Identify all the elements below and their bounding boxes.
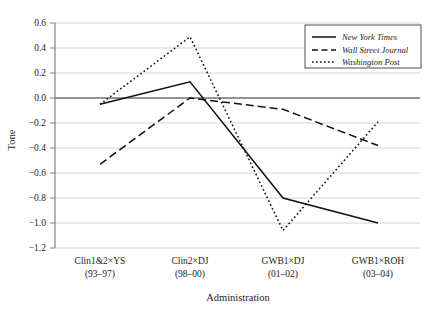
series-line-new-york-times bbox=[100, 82, 378, 223]
xtick-sublabel-3: (03–04) bbox=[363, 269, 393, 280]
ytick-label-5: −0.4 bbox=[29, 143, 46, 153]
y-axis-ticks bbox=[50, 23, 55, 248]
legend-label-washington-post: Washington Post bbox=[342, 57, 400, 67]
xtick-label-0: Clin1&2×YS bbox=[75, 256, 126, 266]
y-axis-title: Tone bbox=[6, 129, 17, 150]
x-axis-category-labels: Clin1&2×YS (93–97) Clin2×DJ (98–00) GWB1… bbox=[75, 256, 405, 280]
ytick-label-1: 0.4 bbox=[34, 43, 46, 53]
xtick-label-2: GWB1×DJ bbox=[262, 256, 305, 266]
y-axis-tick-labels: 0.6 0.4 0.2 0.0 −0.2 −0.4 −0.6 −0.8 −1.0… bbox=[29, 18, 46, 253]
ytick-label-0: 0.6 bbox=[34, 18, 46, 28]
ytick-label-7: −0.8 bbox=[29, 193, 46, 203]
ytick-label-6: −0.6 bbox=[29, 168, 46, 178]
series-line-wall-street-journal bbox=[100, 98, 378, 164]
ytick-label-8: −1.0 bbox=[29, 218, 46, 228]
xtick-sublabel-1: (98–00) bbox=[175, 269, 205, 280]
ytick-label-3: 0.0 bbox=[34, 93, 46, 103]
ytick-label-2: 0.2 bbox=[34, 68, 46, 78]
xtick-sublabel-2: (01–02) bbox=[268, 269, 298, 280]
chart-legend: New York Times Wall Street Journal Washi… bbox=[305, 25, 421, 68]
legend-label-new-york-times: New York Times bbox=[341, 32, 398, 42]
ytick-label-4: −0.2 bbox=[29, 118, 46, 128]
chart-figure: 0.6 0.4 0.2 0.0 −0.2 −0.4 −0.6 −0.8 −1.0… bbox=[0, 0, 433, 313]
ytick-label-9: −1.2 bbox=[29, 243, 46, 253]
xtick-label-3: GWB1×ROH bbox=[352, 256, 404, 266]
xtick-sublabel-0: (93–97) bbox=[85, 269, 115, 280]
x-axis-title: Administration bbox=[206, 292, 270, 303]
line-chart: 0.6 0.4 0.2 0.0 −0.2 −0.4 −0.6 −0.8 −1.0… bbox=[0, 0, 433, 313]
xtick-label-1: Clin2×DJ bbox=[171, 256, 208, 266]
legend-label-wall-street-journal: Wall Street Journal bbox=[342, 45, 409, 55]
